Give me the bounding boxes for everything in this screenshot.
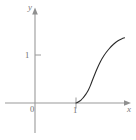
x-tick-label-1: 1 [73, 106, 77, 115]
graph-figure: y x 0 1 1 [0, 0, 136, 140]
y-axis-arrowhead [32, 8, 38, 15]
y-axis-label: y [28, 3, 32, 12]
x-axis-label: x [127, 105, 131, 114]
plot-canvas [0, 0, 136, 140]
origin-label: 0 [30, 105, 34, 114]
function-curve [76, 38, 125, 103]
y-tick-label-1: 1 [25, 51, 29, 60]
